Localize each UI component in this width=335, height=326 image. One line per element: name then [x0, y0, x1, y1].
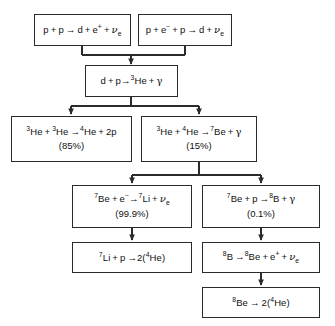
- reaction-ppii-ppiii-branch-equation: 3He + 4He →7Be + γ: [156, 126, 241, 139]
- reaction-ppi-branch-percent: (85%): [59, 140, 84, 152]
- reaction-be8-decay-equation: 8Be → 2(4He): [232, 297, 289, 309]
- reaction-pp1[interactable]: p + p → d + e+ + νe: [34, 14, 131, 46]
- reaction-deuterium-proton-equation: d + p→3He + γ: [101, 75, 163, 88]
- reaction-pep[interactable]: p + e− + p → d + νe: [138, 14, 232, 46]
- reaction-li7-proton-equation: 7Li + p →2(4He): [99, 252, 165, 264]
- reaction-deuterium-proton[interactable]: d + p→3He + γ: [85, 65, 178, 97]
- reaction-ppii-ppiii-branch[interactable]: 3He + 4He →7Be + γ (15%): [141, 116, 257, 162]
- reaction-be7-proton-capture-equation: 7Be + p →8B + γ: [227, 193, 295, 206]
- reaction-be7-proton-capture[interactable]: 7Be + p →8B + γ (0.1%): [202, 185, 320, 228]
- reaction-b8-decay-equation: 8B →8Be + e+ + νe: [223, 251, 300, 264]
- reaction-be8-decay[interactable]: 8Be → 2(4He): [202, 287, 320, 318]
- connector-lines: [0, 0, 335, 326]
- reaction-b8-decay[interactable]: 8B →8Be + e+ + νe: [202, 242, 320, 273]
- reaction-ppi-branch-equation: 3He + 3He →4He + 2p: [26, 126, 116, 138]
- reaction-ppi-branch[interactable]: 3He + 3He →4He + 2p (85%): [11, 116, 132, 162]
- reaction-pp1-equation: p + p → d + e+ + νe: [43, 24, 121, 37]
- reaction-be7-electron-capture[interactable]: 7Be + e−→7Li + νe (99.9%): [72, 185, 192, 228]
- reaction-li7-proton[interactable]: 7Li + p →2(4He): [72, 242, 192, 273]
- reaction-pep-equation: p + e− + p → d + νe: [146, 24, 224, 37]
- reaction-be7-proton-capture-percent: (0.1%): [247, 208, 275, 220]
- reaction-be7-electron-capture-equation: 7Be + e−→7Li + νe: [94, 193, 170, 206]
- reaction-ppii-ppiii-branch-percent: (15%): [186, 140, 211, 152]
- reaction-be7-electron-capture-percent: (99.9%): [115, 208, 148, 220]
- pp-chain-flowchart: p + p → d + e+ + νe p + e− + p → d + νe …: [0, 0, 335, 326]
